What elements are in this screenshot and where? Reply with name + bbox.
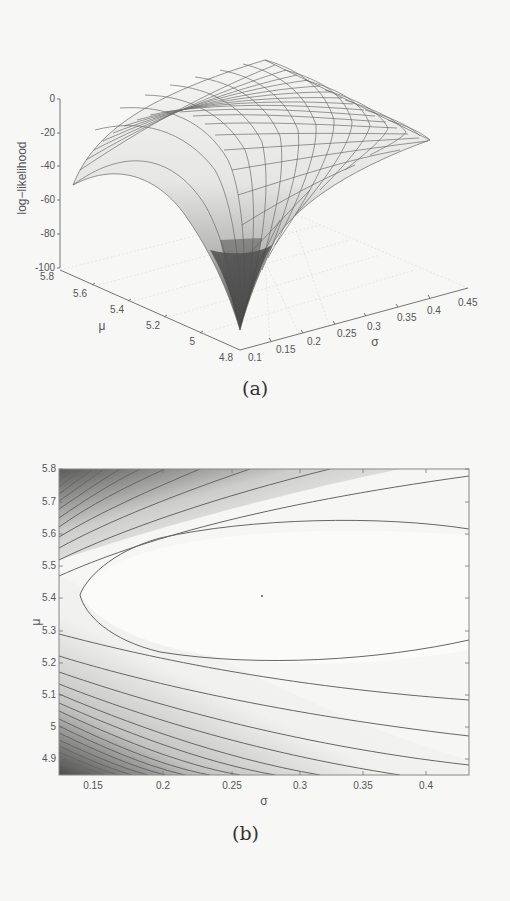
sigma-tick-label: 0.3 (293, 780, 307, 791)
surface-plot-a: 0 -20 -40 -60 -80 -100 log−likelihood 5.… (15, 60, 478, 363)
sigma-tick-label: 0.4 (427, 305, 441, 316)
z-axis: 0 -20 -40 -60 -80 -100 log−likelihood (15, 93, 60, 273)
sigma-tick-label: 0.35 (353, 780, 373, 791)
mu-tick-label: 5.2 (42, 657, 56, 668)
sigma-axis-label: σ (260, 794, 268, 808)
z-tick-label: -20 (41, 127, 56, 138)
mle-point (261, 595, 263, 597)
mu-tick-label: 5.7 (42, 496, 56, 507)
sigma-tick-label: 0.2 (307, 336, 321, 347)
mu-tick-label: 4.8 (219, 352, 233, 363)
mu-tick-label: 5.4 (42, 592, 56, 603)
sigma-tick-label: 0.35 (397, 312, 417, 323)
mu-axis-3d: 5.8 5.6 5.4 5.2 5 4.8 μ (40, 270, 240, 363)
mu-tick-label: 5.6 (42, 528, 56, 539)
mu-tick-label: 5.3 (42, 625, 56, 636)
z-axis-label: log−likelihood (15, 141, 29, 214)
mu-tick-label: 5.8 (40, 271, 54, 282)
sigma-tick-label: 0.15 (276, 344, 296, 355)
mu-tick-label: 5.2 (146, 320, 160, 331)
mu-tick-label: 5.6 (73, 288, 87, 299)
mu-tick-label: 5 (189, 336, 195, 347)
caption-a: (a) (242, 377, 268, 399)
contour-plot-b: 5.8 5.7 5.6 5.5 5.4 5.3 5.2 5.1 5 4.9 μ … (29, 463, 469, 808)
z-tick-label: 0 (49, 93, 55, 104)
mu-tick-label: 5.4 (110, 304, 124, 315)
caption-b: (b) (232, 822, 259, 844)
sigma-tick-label: 0.25 (337, 328, 357, 339)
z-tick-label: -40 (41, 160, 56, 171)
sigma-axis-label: σ (371, 335, 379, 349)
mu-tick-label: 5 (50, 721, 56, 732)
sigma-tick-label: 0.3 (367, 321, 381, 332)
z-tick-label: -80 (41, 228, 56, 239)
mu-tick-label: 4.9 (42, 753, 56, 764)
mu-tick-label: 5.5 (42, 560, 56, 571)
mu-axis-label: μ (29, 618, 43, 625)
mu-tick-label: 5.8 (42, 463, 56, 474)
sigma-axis-3d: 0.1 0.15 0.2 0.25 0.3 0.35 0.4 0.45 σ (240, 288, 478, 363)
sigma-tick-label: 0.1 (248, 352, 262, 363)
sigma-tick-label: 0.45 (458, 297, 478, 308)
sigma-tick-label: 0.25 (222, 780, 242, 791)
z-tick-label: -60 (41, 194, 56, 205)
sigma-tick-label: 0.2 (156, 780, 170, 791)
sigma-tick-label: 0.15 (83, 780, 103, 791)
mu-tick-label: 5.1 (42, 689, 56, 700)
mu-axis-label: μ (99, 319, 106, 333)
sigma-tick-label: 0.4 (419, 780, 433, 791)
figure-canvas: 0 -20 -40 -60 -80 -100 log−likelihood 5.… (0, 0, 510, 901)
